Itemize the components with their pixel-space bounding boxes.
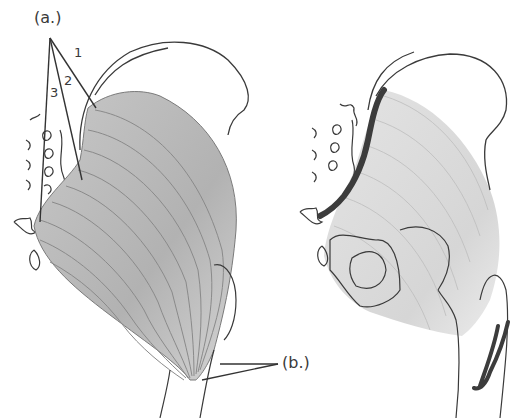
label-a: (a.) bbox=[34, 10, 61, 26]
right-panel bbox=[300, 52, 508, 418]
fiber-number-3: 3 bbox=[50, 86, 58, 99]
label-b: (b.) bbox=[282, 355, 310, 371]
gluteus-maximus-muscle-light bbox=[324, 90, 499, 336]
anatomy-figure bbox=[0, 0, 526, 418]
label-b-leaders bbox=[202, 364, 278, 380]
fiber-number-2: 2 bbox=[64, 74, 72, 87]
fiber-number-1: 1 bbox=[74, 46, 82, 59]
insertion-attachment-mark[interactable] bbox=[474, 322, 508, 388]
